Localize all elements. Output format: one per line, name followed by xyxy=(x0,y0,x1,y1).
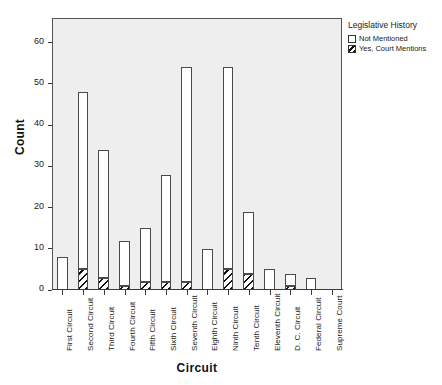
x-axis-tick-mark xyxy=(332,290,333,295)
legend-item[interactable]: Not Mentioned xyxy=(348,34,440,43)
plot-inner xyxy=(53,19,341,289)
x-axis-tick-label: Supreme Court xyxy=(335,295,344,351)
x-axis-tick-label: Sixth Circuit xyxy=(169,307,178,351)
y-axis-tick-label: 40 xyxy=(4,118,44,128)
legend: Legislative History Not MentionedYes, Co… xyxy=(348,20,440,54)
x-axis-tick-mark xyxy=(207,290,208,295)
x-axis-tick-label: Fourth Circuit xyxy=(128,302,137,351)
x-axis-tick-mark xyxy=(83,290,84,295)
y-axis-tick-label: 30 xyxy=(4,159,44,169)
y-axis-tick-label: 0 xyxy=(4,283,44,293)
x-axis-tick-label: Eighth Circuit xyxy=(210,302,219,351)
x-axis-tick-mark xyxy=(104,290,105,295)
y-axis: 0102030405060 xyxy=(0,0,52,385)
x-axis-tick-mark xyxy=(166,290,167,295)
x-axis-tick-mark xyxy=(62,290,63,295)
legend-items: Not MentionedYes, Court Mentions xyxy=(348,34,440,53)
bar-chart: Count 0102030405060 First CircuitSecond … xyxy=(0,0,442,385)
x-axis-title: Circuit xyxy=(52,361,342,375)
x-axis-tick-label: Second Circuit xyxy=(86,298,95,351)
x-axis-tick-label: Ninth Circuit xyxy=(231,306,240,351)
y-axis-tick-label: 50 xyxy=(4,77,44,87)
legend-item-label: Not Mentioned xyxy=(359,34,408,43)
x-axis-tick-mark xyxy=(311,290,312,295)
x-axis-tick-label: Third Circuit xyxy=(107,307,116,351)
y-axis-tick-label: 60 xyxy=(4,36,44,46)
legend-item[interactable]: Yes, Court Mentions xyxy=(348,44,440,53)
x-axis-tick-label: First Circuit xyxy=(65,309,74,351)
x-axis-tick-label: Seventh Circuit xyxy=(190,295,199,351)
x-axis-tick-mark xyxy=(187,290,188,295)
x-axis-tick-mark xyxy=(228,290,229,295)
legend-item-label: Yes, Court Mentions xyxy=(359,44,426,53)
x-axis-tick-label: D. C. Circuit xyxy=(293,307,302,351)
plot-area xyxy=(52,18,342,290)
y-axis-tick-label: 10 xyxy=(4,242,44,252)
x-axis-tick-label: Eleventh Circuit xyxy=(273,293,282,351)
x-axis-labels: First CircuitSecond CircuitThird Circuit… xyxy=(52,296,342,356)
legend-swatch-not-mentioned-icon xyxy=(348,35,356,43)
x-axis-tick-mark xyxy=(249,290,250,295)
x-axis-tick-mark xyxy=(290,290,291,295)
x-axis-tick-mark xyxy=(125,290,126,295)
legend-title: Legislative History xyxy=(348,20,440,30)
x-axis-tick-label: Fifth Circuit xyxy=(148,309,157,351)
x-axis-tick-mark xyxy=(270,290,271,295)
x-axis-tick-mark xyxy=(145,290,146,295)
x-axis-tick-label: Federal Circuit xyxy=(314,297,323,351)
y-axis-tick-label: 20 xyxy=(4,201,44,211)
x-axis-tick-label: Tenth Circuit xyxy=(252,305,261,351)
legend-swatch-court-mentions-icon xyxy=(348,45,356,53)
